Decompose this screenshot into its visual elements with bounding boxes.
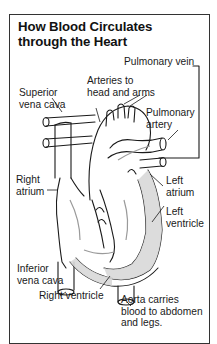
label-pulmonary-artery: Pulmonary artery <box>146 107 195 130</box>
label-left-atrium: Left atrium <box>166 175 194 198</box>
label-right-atrium: Right atrium <box>16 174 44 197</box>
label-left-ventricle: Left ventricle <box>166 206 204 229</box>
label-superior-vena-cava: Superior vena cava <box>19 87 65 110</box>
label-aorta: Aorta carries blood to abdomen and legs. <box>121 294 203 329</box>
label-arteries-to-head: Arteries to head and arms <box>87 75 155 98</box>
label-right-ventricle: Right ventricle <box>39 290 104 302</box>
label-pulmonary-vein: Pulmonary vein <box>124 56 194 68</box>
label-inferior-vena-cava: Inferior vena cava <box>17 263 63 286</box>
